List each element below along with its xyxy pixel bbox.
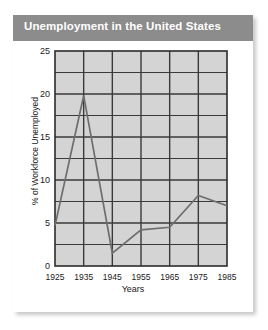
y-tick-label: 0 — [45, 261, 50, 271]
x-tick-label: 1965 — [160, 272, 179, 282]
y-tick-label: 25 — [40, 46, 50, 56]
x-axis-tick-labels: 1925193519451955196519751985 — [46, 272, 237, 282]
x-tick-label: 1935 — [74, 272, 93, 282]
y-tick-label: 20 — [40, 89, 50, 99]
x-tick-label: 1925 — [46, 272, 65, 282]
chart-card: Unemployment in the United States % of W… — [13, 15, 253, 312]
y-tick-label: 10 — [40, 175, 50, 185]
y-axis-tick-labels: 0510152025 — [40, 46, 50, 271]
line-chart-svg: 0510152025 1925193519451955196519751985 — [13, 41, 253, 286]
y-tick-label: 15 — [40, 132, 50, 142]
x-tick-label: 1955 — [132, 272, 151, 282]
x-tick-label: 1975 — [189, 272, 208, 282]
page-title: Unemployment in the United States — [24, 20, 221, 32]
x-tick-label: 1945 — [103, 272, 122, 282]
chart-plot-container: % of Workforce Unemployed 0510152025 192… — [13, 41, 253, 312]
x-axis-title: Years — [13, 284, 253, 294]
chart-title-banner: Unemployment in the United States — [13, 15, 253, 41]
x-tick-label: 1985 — [218, 272, 237, 282]
y-tick-label: 5 — [45, 218, 50, 228]
